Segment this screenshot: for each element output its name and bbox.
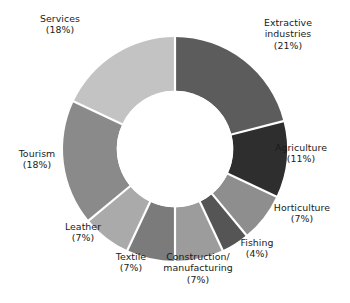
slice-label-agriculture-value: (11%)	[258, 153, 344, 164]
slice-label-leather: Leather (7%)	[55, 221, 111, 244]
slice-label-construction-manufacturing: Construction/ manufacturing (7%)	[155, 251, 241, 285]
slice-label-services: Services (18%)	[23, 13, 97, 36]
slice-label-construction-manufacturing-value: (7%)	[155, 274, 241, 285]
donut-center-hole	[117, 91, 233, 207]
slice-label-services-value: (18%)	[23, 24, 97, 35]
slice-label-services-name: Services	[23, 13, 97, 24]
slice-label-extractive-industries: Extractive industries (21%)	[245, 17, 331, 51]
donut-chart: Services (18%) Extractive industries (21…	[0, 0, 350, 303]
slice-label-leather-value: (7%)	[55, 232, 111, 243]
slice-label-tourism-name: Tourism	[6, 148, 68, 159]
slice-label-horticulture-value: (7%)	[258, 213, 346, 224]
slice-label-horticulture-name: Horticulture	[258, 202, 346, 213]
slice-label-extractive-industries-value: (21%)	[245, 40, 331, 51]
slice-label-construction-manufacturing-line1: Construction/	[155, 251, 241, 262]
slice-label-construction-manufacturing-line2: manufacturing	[155, 262, 241, 273]
slice-label-leather-name: Leather	[55, 221, 111, 232]
slice-label-textile-name: Textile	[108, 251, 154, 262]
slice-label-tourism-value: (18%)	[6, 159, 68, 170]
slice-label-extractive-industries-line2: industries	[245, 28, 331, 39]
slice-label-agriculture: Agriculture (11%)	[258, 142, 344, 165]
slice-label-textile: Textile (7%)	[108, 251, 154, 274]
slice-label-agriculture-name: Agriculture	[258, 142, 344, 153]
slice-label-horticulture: Horticulture (7%)	[258, 202, 346, 225]
slice-label-tourism: Tourism (18%)	[6, 148, 68, 171]
slice-label-fishing-name: Fishing	[229, 237, 285, 248]
slice-label-extractive-industries-line1: Extractive	[245, 17, 331, 28]
slice-label-textile-value: (7%)	[108, 262, 154, 273]
